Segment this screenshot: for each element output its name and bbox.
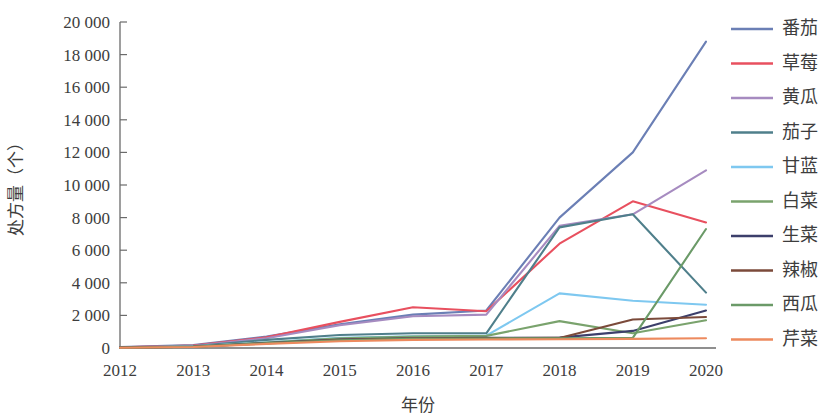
x-tick-label: 2014 (250, 361, 285, 380)
x-tick-label: 2012 (103, 361, 137, 380)
chart-canvas: 02 0004 0006 0008 00010 00012 00014 0001… (0, 0, 818, 420)
x-axis-ticks: 201220132014201520162017201820192020 (103, 361, 723, 380)
series-lines (120, 42, 706, 348)
y-tick-label: 8 000 (72, 209, 110, 228)
legend-item-label: 西瓜 (782, 294, 818, 314)
y-axis-ticks: 02 0004 0006 0008 00010 00012 00014 0001… (63, 13, 127, 358)
y-tick-label: 20 000 (63, 13, 110, 32)
y-axis-title: 处方量（个） (7, 134, 26, 236)
x-tick-label: 2020 (689, 361, 723, 380)
legend-item-label: 甘蓝 (782, 156, 818, 176)
series-line (120, 201, 706, 347)
legend-item-label: 辣椒 (782, 260, 818, 280)
legend-item-label: 番茄 (782, 18, 818, 38)
series-line (120, 170, 706, 347)
y-tick-label: 10 000 (63, 176, 110, 195)
y-tick-label: 18 000 (63, 46, 110, 65)
x-tick-label: 2018 (543, 361, 577, 380)
y-tick-label: 16 000 (63, 78, 110, 97)
y-tick-label: 4 000 (72, 274, 110, 293)
y-tick-label: 0 (102, 339, 111, 358)
x-tick-label: 2019 (616, 361, 650, 380)
legend-item-label: 芹菜 (782, 329, 818, 349)
x-tick-label: 2015 (323, 361, 357, 380)
y-tick-label: 14 000 (63, 111, 110, 130)
legend-item-label: 白菜 (782, 191, 818, 211)
x-tick-label: 2017 (469, 361, 504, 380)
line-chart: 02 0004 0006 0008 00010 00012 00014 0001… (0, 0, 818, 420)
x-tick-label: 2013 (176, 361, 210, 380)
legend-item-label: 草莓 (782, 53, 818, 73)
series-line (120, 42, 706, 347)
y-tick-label: 6 000 (72, 241, 110, 260)
legend-item-label: 茄子 (782, 122, 818, 142)
y-tick-label: 2 000 (72, 306, 110, 325)
legend-item-label: 黄瓜 (782, 87, 818, 107)
legend-item-label: 生菜 (782, 225, 818, 245)
series-line (120, 214, 706, 347)
x-axis-title: 年份 (401, 396, 435, 415)
legend: 番茄草莓黄瓜茄子甘蓝白菜生菜辣椒西瓜芹菜 (731, 18, 818, 349)
x-tick-label: 2016 (396, 361, 430, 380)
y-tick-label: 12 000 (63, 143, 110, 162)
